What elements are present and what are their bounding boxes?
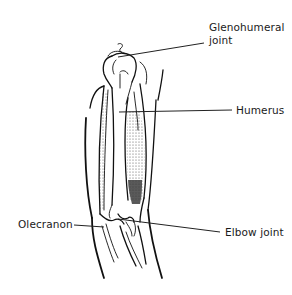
leader-elbow-joint xyxy=(118,219,220,232)
arm-anatomy-diagram: Glenohumeral joint Humerus Olecranon Elb… xyxy=(0,0,292,295)
label-humerus: Humerus xyxy=(236,104,284,117)
label-olecranon: Olecranon xyxy=(18,218,73,231)
leader-lines xyxy=(74,43,232,232)
right-bone-outline xyxy=(148,100,156,210)
left-bone-outline xyxy=(85,86,108,218)
label-elbow-joint: Elbow joint xyxy=(225,226,284,239)
leader-olecranon xyxy=(74,225,104,227)
label-glenohumeral-joint: Glenohumeral joint xyxy=(209,21,284,47)
humerus-shaft xyxy=(112,82,146,205)
leader-glenohumeral xyxy=(118,43,204,57)
